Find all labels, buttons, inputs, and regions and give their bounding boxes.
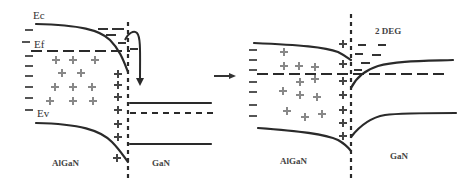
right-panel-equilibrium: 2 DEG: [249, 14, 456, 178]
band-diagram-figure: Ec Ef Ev: [0, 0, 476, 182]
two-deg-label: 2 DEG: [375, 26, 401, 36]
ec-label: Ec: [33, 9, 45, 21]
arrow-right-icon: [229, 73, 236, 79]
gan-label-right: GaN: [390, 151, 409, 161]
valence-band-curve: [36, 123, 128, 162]
conduction-band-curve-algan: [254, 43, 351, 60]
electron-transfer-arrowhead: [136, 78, 144, 86]
surface-negative-charges-equilibrium: [249, 50, 257, 116]
algan-label-right: AlGaN: [280, 156, 308, 166]
surface-negative-charges: [22, 30, 33, 110]
algan-label-left: AlGaN: [52, 158, 80, 168]
conduction-band-curve: [36, 24, 128, 72]
ev-label: Ev: [37, 107, 50, 119]
ef-label: Ef: [34, 38, 45, 50]
valence-band-curve-gan: [351, 113, 456, 137]
transition-arrow: [214, 73, 236, 79]
ionized-donor-charges-equilibrium: [279, 48, 326, 121]
valence-band-curve-algan: [258, 128, 351, 151]
ionized-donor-charges: [46, 56, 99, 105]
left-panel-before-equilibrium: Ec Ef Ev: [22, 9, 213, 180]
gan-label-left: GaN: [152, 158, 171, 168]
